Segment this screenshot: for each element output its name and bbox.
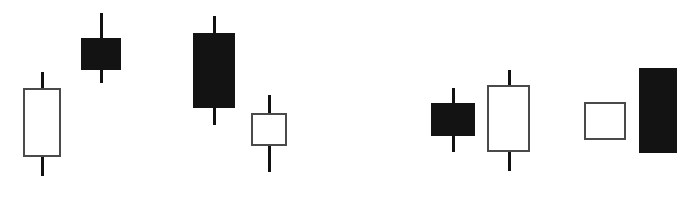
candlestick-8-body bbox=[639, 68, 677, 153]
candlestick-series bbox=[0, 0, 686, 205]
candlestick-figure bbox=[0, 0, 686, 205]
candlestick-8 bbox=[0, 0, 686, 205]
